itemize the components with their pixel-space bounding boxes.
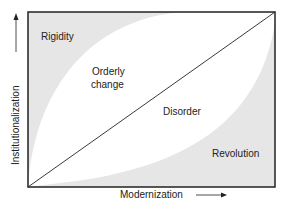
label-revolution: Revolution: [212, 148, 259, 159]
diagram-canvas: Rigidity Orderly change Disorder Revolut…: [0, 0, 283, 212]
y-axis-arrowhead-icon: [14, 13, 19, 20]
label-disorder: Disorder: [163, 106, 201, 117]
label-rigidity: Rigidity: [41, 31, 74, 42]
label-orderly-line1: Orderly: [92, 66, 125, 77]
x-axis-arrowhead-icon: [221, 193, 227, 198]
y-axis-label: Institutionalization: [10, 86, 21, 166]
x-axis-label: Modernization: [120, 189, 183, 200]
label-orderly-line2: change: [91, 79, 124, 90]
